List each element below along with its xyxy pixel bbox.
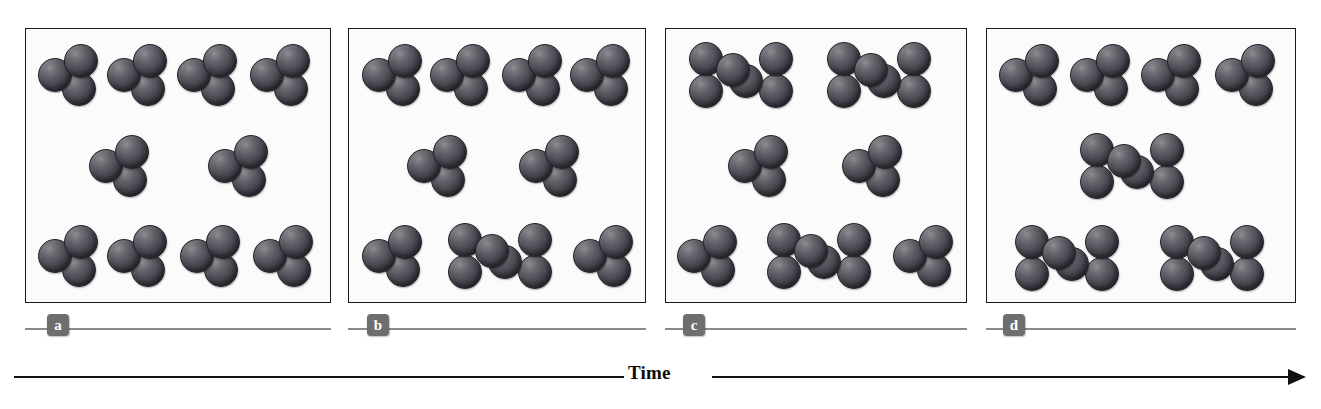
molecule-trimer <box>1215 44 1277 106</box>
molecule-trimer <box>1070 44 1132 106</box>
atom-sphere <box>837 255 871 289</box>
atom-sphere <box>456 44 490 78</box>
molecule-trimer <box>893 225 955 287</box>
molecule-trimer <box>253 225 315 287</box>
molecule-trimer <box>250 44 312 106</box>
panel-label-group-a: a <box>25 306 331 352</box>
atom-sphere <box>64 225 98 259</box>
atom-sphere <box>1150 133 1184 167</box>
panels-row <box>0 0 1321 306</box>
molecule-trimer <box>38 44 100 106</box>
molecule-trimer <box>430 44 492 106</box>
molecule-trimer <box>208 135 270 197</box>
atom-sphere <box>1042 236 1076 270</box>
panel-label-group-b: b <box>348 306 646 352</box>
molecule-trimer <box>177 44 239 106</box>
molecule-trimer <box>89 135 151 197</box>
atom-sphere <box>1085 257 1119 291</box>
atom-sphere <box>1167 44 1201 78</box>
atom-sphere <box>754 135 788 169</box>
molecule-trimer <box>999 44 1061 106</box>
molecule-dimer <box>1015 225 1119 291</box>
atom-sphere <box>794 234 828 268</box>
molecule-dimer <box>1160 225 1264 291</box>
molecule-trimer <box>180 225 242 287</box>
atom-sphere <box>596 44 630 78</box>
atom-sphere <box>897 74 931 108</box>
reaction-progress-figure: a b c d Time <box>0 0 1321 409</box>
panel-label-group-c: c <box>665 306 967 352</box>
molecule-trimer <box>519 135 581 197</box>
molecule-trimer <box>728 135 790 197</box>
panel-c-contents <box>666 29 966 302</box>
time-axis-line-left <box>14 376 624 378</box>
label-rule-line-d <box>986 328 1296 330</box>
time-axis-line-right <box>712 376 1290 378</box>
atom-sphere <box>388 44 422 78</box>
atom-sphere <box>1230 257 1264 291</box>
molecule-dimer <box>689 42 793 108</box>
atom-sphere <box>1107 144 1141 178</box>
atom-sphere <box>528 44 562 78</box>
atom-sphere <box>919 225 953 259</box>
atom-sphere <box>599 225 633 259</box>
molecule-trimer <box>38 225 100 287</box>
atom-sphere <box>759 42 793 76</box>
atom-sphere <box>276 44 310 78</box>
atom-sphere <box>518 255 552 289</box>
molecule-dimer <box>767 223 871 289</box>
time-axis-label: Time <box>628 362 671 384</box>
time-axis: Time <box>0 352 1321 409</box>
atom-sphere <box>203 44 237 78</box>
atom-sphere <box>1187 236 1221 270</box>
panel-label-b: b <box>367 314 389 336</box>
atom-sphere <box>854 53 888 87</box>
panel-b <box>348 28 646 303</box>
molecule-dimer <box>827 42 931 108</box>
molecule-trimer <box>570 44 632 106</box>
atom-sphere <box>518 223 552 257</box>
panel-label-d: d <box>1003 314 1025 336</box>
atom-sphere <box>759 74 793 108</box>
panel-b-contents <box>349 29 645 302</box>
atom-sphere <box>1241 44 1275 78</box>
atom-sphere <box>475 234 509 268</box>
molecule-trimer <box>502 44 564 106</box>
atom-sphere <box>545 135 579 169</box>
atom-sphere <box>868 135 902 169</box>
atom-sphere <box>279 225 313 259</box>
atom-sphere <box>703 225 737 259</box>
label-rule-line-c <box>665 328 967 330</box>
molecule-trimer <box>677 225 739 287</box>
molecule-trimer <box>842 135 904 197</box>
label-rule-line-b <box>348 328 646 330</box>
label-rule-line-a <box>25 328 331 330</box>
atom-sphere <box>433 135 467 169</box>
panel-a-contents <box>26 29 330 302</box>
panel-label-c: c <box>683 314 705 336</box>
time-arrow-icon <box>1288 369 1306 385</box>
atom-sphere <box>64 44 98 78</box>
molecule-trimer <box>407 135 469 197</box>
molecule-trimer <box>107 225 169 287</box>
panel-label-group-d: d <box>986 306 1296 352</box>
atom-sphere <box>206 225 240 259</box>
atom-sphere <box>1085 225 1119 259</box>
molecule-dimer <box>1080 133 1184 199</box>
atom-sphere <box>1230 225 1264 259</box>
atom-sphere <box>897 42 931 76</box>
panel-d <box>986 28 1296 303</box>
panel-c <box>665 28 967 303</box>
atom-sphere <box>133 225 167 259</box>
atom-sphere <box>1096 44 1130 78</box>
molecule-trimer <box>107 44 169 106</box>
molecule-dimer <box>448 223 552 289</box>
molecule-trimer <box>362 225 424 287</box>
atom-sphere <box>716 53 750 87</box>
atom-sphere <box>1025 44 1059 78</box>
panel-label-a: a <box>47 314 69 336</box>
atom-sphere <box>115 135 149 169</box>
molecule-trimer <box>1141 44 1203 106</box>
molecule-trimer <box>573 225 635 287</box>
atom-sphere <box>133 44 167 78</box>
